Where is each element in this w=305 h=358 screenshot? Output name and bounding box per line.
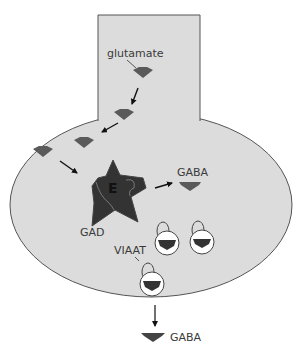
released-gaba-label: GABA xyxy=(170,331,202,344)
gaba-synthesis-diagram: glutamate E GAD GABA VIAAT GABA xyxy=(0,0,305,358)
gaba-label: GABA xyxy=(177,166,209,179)
viaat-label: VIAAT xyxy=(114,244,146,257)
gad-label: GAD xyxy=(80,226,105,239)
enzyme-letter: E xyxy=(108,180,118,196)
released-gaba-molecule xyxy=(141,333,165,342)
glutamate-label: glutamate xyxy=(107,47,164,60)
